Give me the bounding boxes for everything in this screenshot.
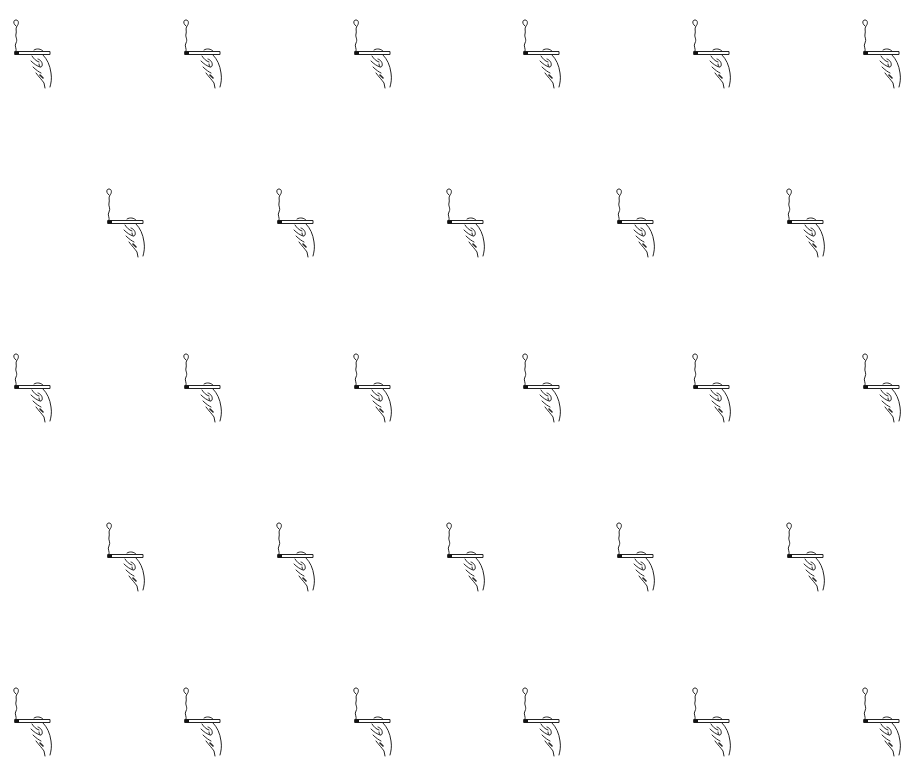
hand-holding-cigarette-icon [180,351,226,427]
hand-holding-cigarette-icon [273,520,319,596]
hand-holding-cigarette-icon [519,351,565,427]
hand-holding-cigarette-icon [180,685,226,761]
hand-holding-cigarette-icon [443,186,489,262]
hand-holding-cigarette-icon [10,685,56,761]
hand-holding-cigarette-icon [350,685,396,761]
hand-holding-cigarette-icon [443,520,489,596]
hand-holding-cigarette-icon [103,520,149,596]
hand-holding-cigarette-icon [273,186,319,262]
hand-holding-cigarette-icon [689,17,735,93]
hand-holding-cigarette-icon [103,186,149,262]
hand-holding-cigarette-icon [859,685,905,761]
hand-holding-cigarette-icon [859,17,905,93]
hand-holding-cigarette-icon [350,17,396,93]
hand-holding-cigarette-icon [519,17,565,93]
hand-holding-cigarette-icon [350,351,396,427]
hand-holding-cigarette-icon [783,520,829,596]
hand-holding-cigarette-icon [180,17,226,93]
hand-holding-cigarette-icon [689,685,735,761]
hand-holding-cigarette-icon [10,351,56,427]
hand-holding-cigarette-icon [689,351,735,427]
hand-holding-cigarette-icon [783,186,829,262]
hand-holding-cigarette-icon [519,685,565,761]
hand-holding-cigarette-icon [859,351,905,427]
hand-holding-cigarette-icon [613,186,659,262]
hand-holding-cigarette-icon [613,520,659,596]
hand-holding-cigarette-icon [10,17,56,93]
